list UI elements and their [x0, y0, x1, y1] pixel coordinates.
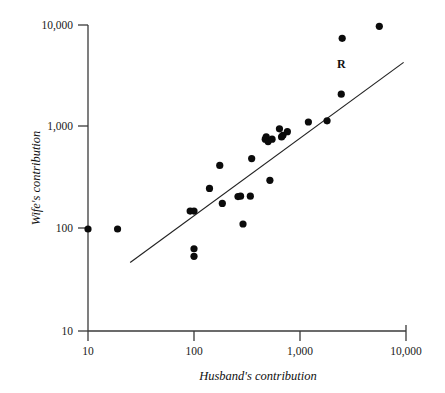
x-tick-label-10000: 10,000 — [390, 345, 422, 358]
data-point — [284, 128, 291, 135]
axis-group — [78, 25, 406, 341]
plot-canvas: 10,000 1,000 100 10 10 100 1,000 10,000 … — [0, 0, 445, 393]
x-axis-title: Husband's contribution — [198, 369, 317, 383]
x-tick-label-10: 10 — [82, 345, 94, 357]
data-point — [376, 23, 383, 30]
regression-line — [130, 62, 403, 262]
data-point — [276, 125, 283, 132]
data-point — [190, 207, 197, 214]
data-point — [114, 225, 121, 232]
data-point — [266, 177, 273, 184]
x-tick-label-100: 100 — [185, 345, 203, 357]
data-point — [247, 193, 254, 200]
x-tick-label-1000: 1,000 — [287, 345, 313, 358]
regression-line-label: R — [337, 57, 346, 71]
y-tick-label-10: 10 — [62, 325, 74, 337]
data-point — [239, 220, 246, 227]
y-tick-label-100: 100 — [56, 222, 74, 234]
data-point — [339, 35, 346, 42]
y-tick-label-10000: 10,000 — [41, 19, 73, 32]
data-point — [237, 193, 244, 200]
data-point — [190, 245, 197, 252]
data-point — [248, 155, 255, 162]
data-point — [338, 91, 345, 98]
data-point — [206, 185, 213, 192]
data-point — [216, 162, 223, 169]
data-point — [190, 253, 197, 260]
data-point — [219, 200, 226, 207]
y-axis-title: Wife's contribution — [29, 131, 43, 226]
data-point — [305, 118, 312, 125]
data-point — [268, 136, 275, 143]
data-point — [84, 225, 91, 232]
y-tick-label-1000: 1,000 — [47, 120, 73, 133]
data-point — [323, 117, 330, 124]
scatter-plot-figure: 10,000 1,000 100 10 10 100 1,000 10,000 … — [0, 0, 445, 393]
